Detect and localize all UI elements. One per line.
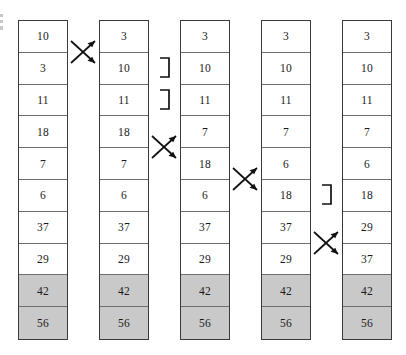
array-cell: 56 bbox=[181, 307, 229, 339]
array-cell: 37 bbox=[181, 212, 229, 244]
array-state-2: 31011187637294256 bbox=[99, 20, 149, 340]
array-cell: 3 bbox=[100, 21, 148, 53]
swap-1 bbox=[67, 35, 101, 69]
array-cell: 42 bbox=[100, 275, 148, 307]
bracket-1 bbox=[159, 56, 172, 80]
array-cell: 11 bbox=[181, 85, 229, 117]
array-cell: 18 bbox=[181, 148, 229, 180]
bracket-3 bbox=[321, 183, 334, 207]
array-cell: 18 bbox=[262, 180, 310, 212]
array-cell: 37 bbox=[100, 212, 148, 244]
array-cell: 18 bbox=[100, 116, 148, 148]
array-cell: 29 bbox=[343, 212, 391, 244]
array-cell: 29 bbox=[100, 244, 148, 276]
array-cell: 7 bbox=[262, 116, 310, 148]
array-cell: 11 bbox=[19, 85, 67, 117]
array-cell: 10 bbox=[262, 53, 310, 85]
swap-2 bbox=[148, 130, 182, 164]
array-cell: 3 bbox=[343, 21, 391, 53]
array-cell: 29 bbox=[262, 244, 310, 276]
array-cell: 11 bbox=[343, 85, 391, 117]
array-cell: 42 bbox=[19, 275, 67, 307]
sorting-trace-figure: 1031118763729425631011187637294256310117… bbox=[0, 0, 406, 355]
array-cell: 37 bbox=[343, 244, 391, 276]
array-cell: 29 bbox=[19, 244, 67, 276]
array-cell: 7 bbox=[181, 116, 229, 148]
array-cell: 3 bbox=[181, 21, 229, 53]
array-cell: 10 bbox=[343, 53, 391, 85]
array-cell: 7 bbox=[19, 148, 67, 180]
array-cell: 10 bbox=[181, 53, 229, 85]
array-cell: 6 bbox=[262, 148, 310, 180]
array-cell: 6 bbox=[343, 148, 391, 180]
array-cell: 29 bbox=[181, 244, 229, 276]
array-cell: 18 bbox=[343, 180, 391, 212]
array-cell: 56 bbox=[100, 307, 148, 339]
array-cell: 10 bbox=[19, 21, 67, 53]
array-cell: 42 bbox=[181, 275, 229, 307]
array-cell: 6 bbox=[181, 180, 229, 212]
array-cell: 42 bbox=[262, 275, 310, 307]
array-cell: 18 bbox=[19, 116, 67, 148]
array-cell: 56 bbox=[343, 307, 391, 339]
array-cell: 42 bbox=[343, 275, 391, 307]
array-cell: 7 bbox=[343, 116, 391, 148]
page-edge-artifact bbox=[0, 14, 3, 30]
array-cell: 6 bbox=[19, 180, 67, 212]
array-cell: 11 bbox=[100, 85, 148, 117]
array-cell: 11 bbox=[262, 85, 310, 117]
swap-3 bbox=[229, 162, 263, 196]
bracket-2 bbox=[159, 88, 172, 112]
array-cell: 3 bbox=[262, 21, 310, 53]
array-cell: 56 bbox=[19, 307, 67, 339]
array-cell: 37 bbox=[19, 212, 67, 244]
array-cell: 6 bbox=[100, 180, 148, 212]
swap-4 bbox=[310, 226, 344, 260]
array-cell: 7 bbox=[100, 148, 148, 180]
array-state-1: 10311187637294256 bbox=[18, 20, 68, 340]
array-cell: 3 bbox=[19, 53, 67, 85]
array-state-3: 31011718637294256 bbox=[180, 20, 230, 340]
array-cell: 37 bbox=[262, 212, 310, 244]
array-state-4: 31011761837294256 bbox=[261, 20, 311, 340]
array-cell: 56 bbox=[262, 307, 310, 339]
array-cell: 10 bbox=[100, 53, 148, 85]
array-state-5: 31011761829374256 bbox=[342, 20, 392, 340]
